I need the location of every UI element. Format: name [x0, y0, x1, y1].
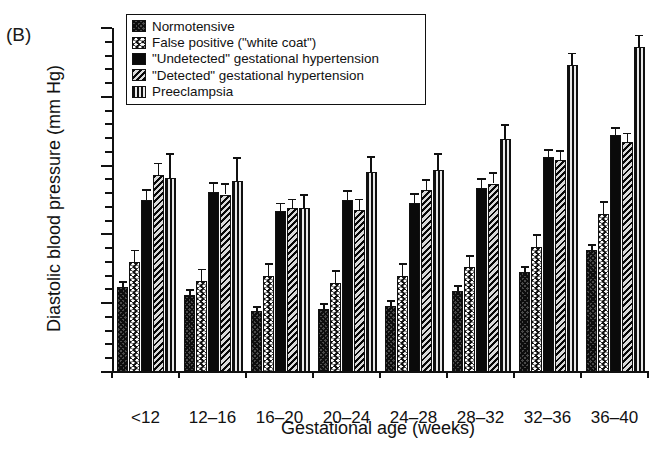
error-bar-stem	[603, 201, 605, 213]
error-bar-stem	[493, 172, 495, 183]
legend-swatch-icon	[132, 69, 146, 81]
error-bar-cap	[320, 303, 328, 305]
error-bar-stem	[426, 179, 428, 190]
error-bar-cap	[355, 199, 363, 201]
y-tick-minor	[105, 110, 112, 112]
bar	[275, 211, 286, 372]
error-bar-cap	[556, 150, 564, 152]
error-bar-cap	[166, 153, 174, 155]
error-bar-cap	[209, 182, 217, 184]
error-bar-cap	[521, 266, 529, 268]
legend-item: Preeclampsia	[132, 84, 420, 100]
bar	[342, 200, 353, 372]
bar	[366, 172, 377, 372]
bar	[500, 139, 511, 372]
x-group-label: 28–32	[447, 408, 514, 428]
error-bar-stem	[268, 263, 270, 275]
error-bar-cap	[221, 183, 229, 185]
error-bar-cap	[489, 172, 497, 174]
error-bar-cap	[387, 300, 395, 302]
y-tick-minor	[105, 343, 112, 345]
error-bar-cap	[142, 189, 150, 191]
error-bar-stem	[402, 263, 404, 275]
bar	[610, 135, 621, 372]
error-bar-cap	[477, 178, 485, 180]
error-bar-cap	[367, 156, 375, 158]
x-tick	[647, 371, 649, 378]
bar	[165, 178, 176, 372]
bar	[543, 157, 554, 372]
error-bar-cap	[131, 250, 139, 252]
y-tick-major	[101, 27, 112, 29]
bar	[433, 170, 444, 372]
y-tick-minor	[105, 192, 112, 194]
legend-swatch-icon	[132, 20, 146, 32]
x-tick	[111, 371, 113, 378]
bar	[622, 142, 633, 372]
chart-legend: NormotensiveFalse positive ("white coat"…	[126, 14, 426, 105]
error-bar-cap	[265, 263, 273, 265]
error-bar-stem	[201, 269, 203, 281]
error-bar-stem	[638, 35, 640, 47]
x-group-label: 36–40	[581, 408, 648, 428]
legend-swatch-icon	[132, 37, 146, 49]
legend-swatch-icon	[132, 86, 146, 98]
x-tick	[513, 371, 515, 378]
error-bar-stem	[571, 53, 573, 65]
y-tick-minor	[105, 137, 112, 139]
error-bar-stem	[335, 270, 337, 282]
legend-label: "Undetected" gestational hypertension	[152, 51, 379, 66]
error-bar-stem	[303, 194, 305, 208]
legend-item: "Detected" gestational hypertension	[132, 67, 420, 83]
error-bar-cap	[154, 163, 162, 165]
error-bar-cap	[454, 285, 462, 287]
bar	[220, 195, 231, 373]
bar	[354, 210, 365, 372]
x-tick	[580, 371, 582, 378]
y-tick-minor	[105, 316, 112, 318]
y-tick-minor	[105, 261, 112, 263]
error-bar-stem	[469, 255, 471, 267]
y-tick-minor	[105, 206, 112, 208]
y-tick-major	[101, 96, 112, 98]
bar	[208, 192, 219, 372]
bar	[184, 295, 195, 372]
y-tick-minor	[105, 55, 112, 57]
bar	[196, 281, 207, 372]
y-tick-minor	[105, 275, 112, 277]
bar	[519, 272, 530, 372]
bar	[555, 160, 566, 372]
bar	[318, 309, 329, 372]
y-tick-minor	[105, 288, 112, 290]
error-bar-cap	[466, 255, 474, 257]
error-bar-stem	[437, 153, 439, 170]
figure-panel-b: (B) Diastolic blood pressure (mm Hg) Ges…	[0, 0, 654, 451]
y-axis-line	[112, 28, 114, 373]
legend-item: False positive ("white coat")	[132, 34, 420, 50]
y-tick-minor	[105, 357, 112, 359]
error-bar-cap	[544, 149, 552, 151]
error-bar-stem	[236, 157, 238, 180]
error-bar-stem	[536, 234, 538, 246]
error-bar-stem	[146, 189, 148, 200]
bar	[397, 276, 408, 372]
bar	[452, 291, 463, 372]
bar	[385, 306, 396, 372]
legend-item: Normotensive	[132, 18, 420, 34]
bar	[141, 200, 152, 372]
x-tick	[446, 371, 448, 378]
legend-label: False positive ("white coat")	[152, 35, 316, 50]
bar	[287, 208, 298, 372]
y-tick-minor	[105, 247, 112, 249]
x-group-label: 24–28	[380, 408, 447, 428]
y-axis-title: Diastolic blood pressure (mm Hg)	[44, 49, 65, 349]
error-bar-cap	[198, 269, 206, 271]
y-tick-minor	[105, 151, 112, 153]
bar	[476, 188, 487, 372]
y-tick-minor	[105, 68, 112, 70]
x-group-label: 12–16	[179, 408, 246, 428]
x-tick	[245, 371, 247, 378]
legend-swatch-icon	[132, 53, 146, 65]
legend-label: Preeclampsia	[152, 84, 233, 99]
error-bar-stem	[370, 156, 372, 173]
